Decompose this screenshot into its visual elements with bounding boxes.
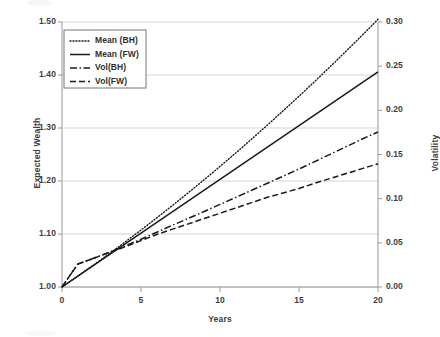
y2-axis-tick-label: 0.25 xyxy=(386,60,424,70)
y2-axis-tick-label: 0.15 xyxy=(386,149,424,159)
series-line xyxy=(62,72,378,287)
y2-axis-title: Volatility xyxy=(430,108,440,198)
y-axis-tick-label: 1.50 xyxy=(18,16,56,26)
y-axis-tick-label: 1.40 xyxy=(18,69,56,79)
y2-axis-tick-label: 0.00 xyxy=(386,281,424,291)
y2-axis-tick-label: 0.30 xyxy=(386,16,424,26)
y2-axis-tick-label: 0.05 xyxy=(386,237,424,247)
y2-axis-tick-label: 0.10 xyxy=(386,193,424,203)
x-axis-tick-label: 0 xyxy=(47,295,77,305)
series-line xyxy=(62,132,378,287)
x-axis-tick-label: 20 xyxy=(363,295,393,305)
legend-item-label: Mean (FW) xyxy=(95,49,139,59)
y-axis-tick-label: 1.10 xyxy=(18,228,56,238)
x-axis-tick-label: 10 xyxy=(205,295,235,305)
y-axis-title: Expected Wealth xyxy=(32,108,42,198)
legend-item-label: Vol(BH) xyxy=(95,62,126,72)
x-axis-tick-label: 15 xyxy=(284,295,314,305)
y-axis-tick-label: 1.00 xyxy=(18,281,56,291)
legend-item-label: Vol(FW) xyxy=(95,76,127,86)
y2-axis-tick-label: 0.20 xyxy=(386,104,424,114)
series-line xyxy=(62,164,378,287)
legend-item-label: Mean (BH) xyxy=(95,35,138,45)
x-axis-tick-label: 5 xyxy=(126,295,156,305)
x-axis-title: Years xyxy=(180,314,260,324)
